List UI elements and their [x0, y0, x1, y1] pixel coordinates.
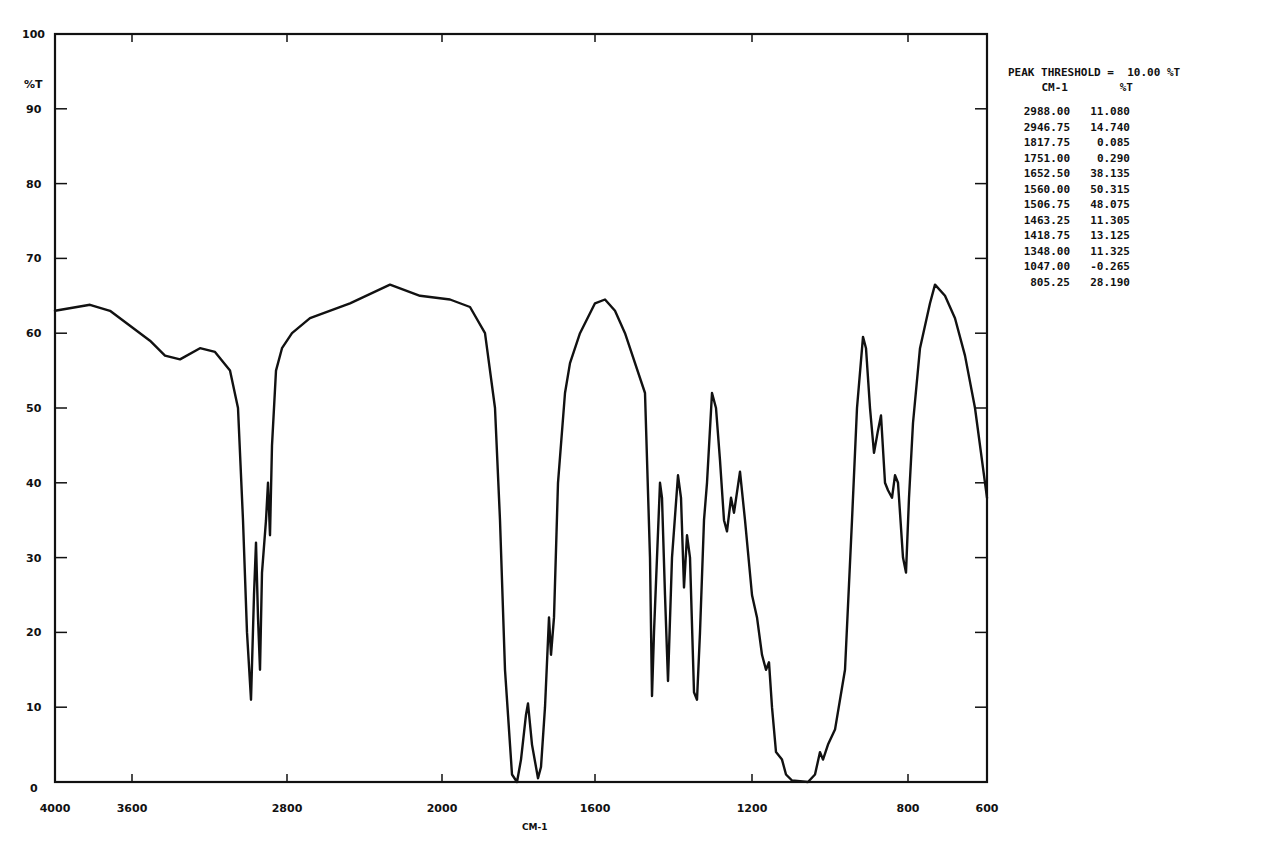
x-tick-label: 1200 [737, 802, 768, 815]
peak-wavenumber: 1348.00 [1008, 244, 1070, 260]
y-tick-label: 90 [26, 103, 42, 116]
peak-threshold: PEAK THRESHOLD = 10.00 %T [1008, 66, 1180, 79]
peak-row: 1560.0050.315 [1008, 182, 1180, 198]
peak-transmittance: 28.190 [1070, 275, 1130, 291]
peak-row: 1463.2511.305 [1008, 213, 1180, 229]
peak-table-rows: 2988.0011.0802946.7514.7401817.750.08517… [1008, 104, 1180, 290]
peak-transmittance: -0.265 [1070, 259, 1130, 275]
peak-transmittance: 0.290 [1070, 151, 1130, 167]
peak-wavenumber: 1463.25 [1008, 213, 1070, 229]
peak-row: 1817.750.085 [1008, 135, 1180, 151]
y-tick-label: 50 [26, 402, 42, 415]
y-tick-label: 60 [26, 327, 42, 340]
peak-row: 1506.7548.075 [1008, 197, 1180, 213]
plot-frame [55, 34, 987, 782]
x-tick-label: 600 [976, 802, 999, 815]
x-tick-label: 2800 [272, 802, 303, 815]
x-tick-label: 2000 [427, 802, 458, 815]
peak-wavenumber: 2988.00 [1008, 104, 1070, 120]
y-tick-label: 70 [26, 252, 42, 265]
peak-row: 1751.000.290 [1008, 151, 1180, 167]
peak-wavenumber: 1751.00 [1008, 151, 1070, 167]
peak-wavenumber: 2946.75 [1008, 120, 1070, 136]
col-transmittance-header: %T [1068, 81, 1133, 94]
x-tick-label: 3600 [117, 802, 148, 815]
y-tick-label: 100 [22, 28, 45, 41]
peak-transmittance: 11.305 [1070, 213, 1130, 229]
y-tick-label: 10 [26, 701, 42, 714]
peak-transmittance: 13.125 [1070, 228, 1130, 244]
peak-row: 805.2528.190 [1008, 275, 1180, 291]
y-tick-label: 0 [30, 782, 38, 795]
peak-row: 1418.7513.125 [1008, 228, 1180, 244]
peak-row: 2946.7514.740 [1008, 120, 1180, 136]
y-tick-label: 20 [26, 626, 42, 639]
peak-wavenumber: 1560.00 [1008, 182, 1070, 198]
peak-row: 1047.00-0.265 [1008, 259, 1180, 275]
x-tick-label: 800 [897, 802, 920, 815]
peak-wavenumber: 1652.50 [1008, 166, 1070, 182]
peak-wavenumber: 1506.75 [1008, 197, 1070, 213]
peak-transmittance: 38.135 [1070, 166, 1130, 182]
peak-row: 1652.5038.135 [1008, 166, 1180, 182]
peak-threshold-label: PEAK THRESHOLD = [1008, 66, 1114, 79]
peak-wavenumber: 805.25 [1008, 275, 1070, 291]
peak-transmittance: 48.075 [1070, 197, 1130, 213]
y-tick-label: 40 [26, 477, 42, 490]
peak-transmittance: 11.325 [1070, 244, 1130, 260]
peak-table-header: CM-1 %T [1008, 81, 1180, 94]
peak-wavenumber: 1817.75 [1008, 135, 1070, 151]
col-wavenumber-header: CM-1 [1008, 81, 1068, 94]
peak-transmittance: 14.740 [1070, 120, 1130, 136]
y-axis-unit-label: %T [24, 78, 43, 91]
peak-row: 2988.0011.080 [1008, 104, 1180, 120]
peak-wavenumber: 1047.00 [1008, 259, 1070, 275]
peak-transmittance: 50.315 [1070, 182, 1130, 198]
x-tick-label: 1600 [580, 802, 611, 815]
peak-wavenumber: 1418.75 [1008, 228, 1070, 244]
peak-transmittance: 11.080 [1070, 104, 1130, 120]
peak-table: PEAK THRESHOLD = 10.00 %T CM-1 %T 2988.0… [1008, 66, 1180, 290]
peak-transmittance: 0.085 [1070, 135, 1130, 151]
x-axis-unit-label: CM-1 [522, 822, 548, 832]
y-tick-label: 30 [26, 552, 42, 565]
spectrum-line [55, 285, 987, 782]
plot-border [55, 34, 987, 782]
peak-threshold-value: 10.00 %T [1127, 66, 1180, 79]
y-tick-label: 80 [26, 178, 42, 191]
x-tick-label: 4000 [40, 802, 71, 815]
x-axis: 400036002800200016001200800600 [40, 34, 999, 815]
peak-row: 1348.0011.325 [1008, 244, 1180, 260]
